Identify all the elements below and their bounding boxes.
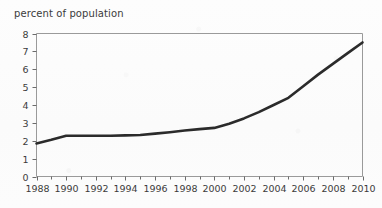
y-tick-label: 8 [22,29,28,40]
data-series-line [37,42,363,143]
x-tick-label: 2002 [232,183,256,194]
y-tick-label: 1 [22,154,28,165]
x-tick-label: 1998 [173,183,197,194]
y-tick-label: 5 [22,82,28,93]
x-tick-label: 1994 [113,183,137,194]
y-axis-tick-labels: 012345678 [22,29,28,183]
x-tick-label: 1992 [84,183,108,194]
y-tick-label: 6 [22,64,28,75]
x-axis-tick-labels: 1988199019921994199619982000200220042006… [25,183,375,194]
x-tick-label: 2010 [351,183,375,194]
line-chart-plot: 012345678 198819901992199419961998200020… [0,0,382,208]
x-axis-ticks [38,177,364,181]
y-tick-label: 4 [22,100,28,111]
x-tick-label: 2006 [291,183,315,194]
x-tick-label: 2008 [321,183,345,194]
y-tick-label: 2 [22,136,28,147]
plot-frame [37,34,363,177]
x-tick-label: 2004 [262,183,286,194]
x-tick-label: 2000 [202,183,226,194]
x-tick-label: 1996 [143,183,167,194]
x-tick-label: 1988 [25,183,49,194]
y-tick-label: 7 [22,46,28,57]
y-tick-label: 3 [22,118,28,129]
y-tick-label: 0 [22,172,28,183]
chart-container: percent of population 012345678 19881990… [0,0,382,208]
y-axis-ticks [33,35,37,178]
x-tick-label: 1990 [54,183,78,194]
